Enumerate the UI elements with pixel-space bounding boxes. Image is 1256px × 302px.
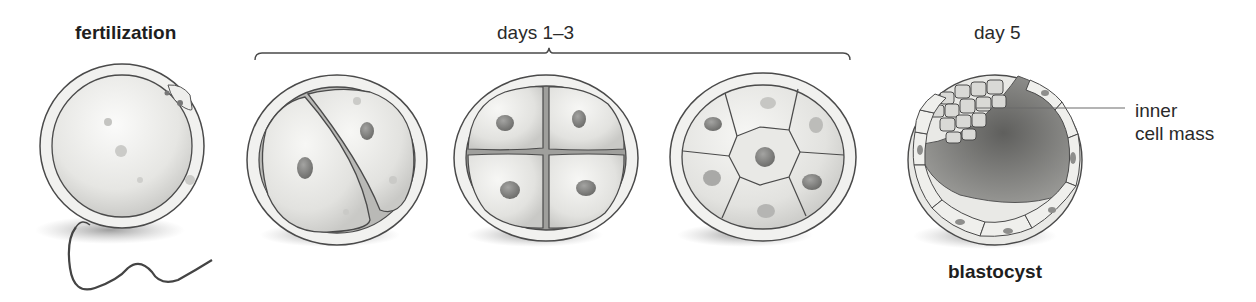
two-cell-embryo bbox=[247, 75, 427, 247]
four-cell-embryo bbox=[454, 75, 638, 247]
blastocyst bbox=[908, 75, 1125, 249]
embryo-illustration bbox=[0, 0, 1256, 302]
days-bracket bbox=[255, 48, 850, 60]
multi-cell-embryo bbox=[670, 73, 856, 247]
fertilized-egg bbox=[35, 64, 212, 289]
